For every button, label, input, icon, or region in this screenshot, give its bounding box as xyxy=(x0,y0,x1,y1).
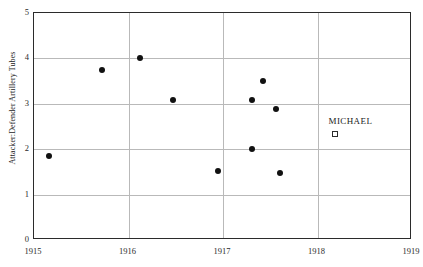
x-tick-label: 1916 xyxy=(108,247,148,256)
x-tick-label: 1915 xyxy=(13,247,53,256)
data-point xyxy=(215,168,221,174)
data-point xyxy=(249,97,255,103)
x-tick-label: 1918 xyxy=(297,247,337,256)
data-point xyxy=(137,55,143,61)
x-tick-label: 1917 xyxy=(202,247,242,256)
data-point xyxy=(46,153,52,159)
gridline-horizontal xyxy=(34,195,410,196)
x-tick-label: 1919 xyxy=(391,247,423,256)
data-point xyxy=(170,97,176,103)
legend-label: MICHAEL xyxy=(329,117,373,126)
gridline-vertical xyxy=(129,13,130,238)
gridline-vertical xyxy=(318,13,319,238)
gridline-horizontal xyxy=(34,104,410,105)
data-point xyxy=(99,67,105,73)
gridline-horizontal xyxy=(34,149,410,150)
data-point xyxy=(260,78,266,84)
plot-area: MICHAEL xyxy=(33,12,411,239)
data-point xyxy=(273,106,279,112)
data-point xyxy=(249,146,255,152)
scatter-chart: Attacker:Defender Artillery Tubes 012345… xyxy=(0,0,423,267)
gridline-vertical xyxy=(223,13,224,238)
data-point xyxy=(277,170,283,176)
gridline-horizontal xyxy=(34,58,410,59)
legend-marker-open-square xyxy=(332,131,338,137)
